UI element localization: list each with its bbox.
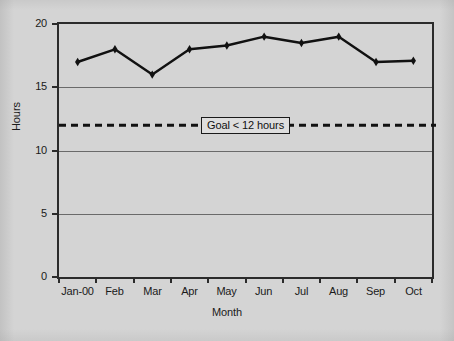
data-point-marker — [373, 58, 378, 66]
x-tick-label-jul: Jul — [283, 285, 320, 297]
chart-figure: Hours Goal < 12 hours 05101520 Jan-00Feb… — [0, 0, 454, 341]
data-point-marker — [187, 45, 192, 53]
y-tick-label-15: 15 — [19, 81, 47, 91]
y-tick-label-0: 0 — [19, 271, 47, 281]
data-point-marker — [150, 70, 155, 78]
x-tick-label-mar: Mar — [134, 285, 171, 297]
y-axis-title: Hours — [10, 102, 22, 131]
x-tick-label-sep: Sep — [357, 285, 394, 297]
y-tick-mark-20 — [52, 23, 58, 25]
y-tick-label-5: 5 — [19, 208, 47, 218]
y-tick-mark-15 — [52, 86, 58, 88]
data-series-hours — [59, 24, 436, 281]
data-point-marker — [224, 41, 229, 49]
x-tick-label-apr: Apr — [171, 285, 208, 297]
x-axis-title: Month — [0, 306, 454, 318]
x-tick-label-feb: Feb — [96, 285, 133, 297]
data-point-marker — [299, 39, 304, 47]
data-point-marker — [112, 45, 117, 53]
data-point-marker — [262, 32, 267, 40]
plot-area — [57, 22, 434, 279]
x-tick-label-aug: Aug — [320, 285, 357, 297]
x-tick-label-jun: Jun — [245, 285, 282, 297]
x-tick-label-may: May — [208, 285, 245, 297]
data-point-marker — [336, 32, 341, 40]
x-tick-label-jan-00: Jan-00 — [59, 285, 96, 297]
data-point-marker — [411, 56, 416, 64]
y-tick-label-20: 20 — [19, 18, 47, 28]
y-tick-label-10: 10 — [19, 145, 47, 155]
y-tick-mark-5 — [52, 213, 58, 215]
y-tick-mark-10 — [52, 150, 58, 152]
data-point-marker — [75, 58, 80, 66]
x-tick-label-oct: Oct — [395, 285, 432, 297]
